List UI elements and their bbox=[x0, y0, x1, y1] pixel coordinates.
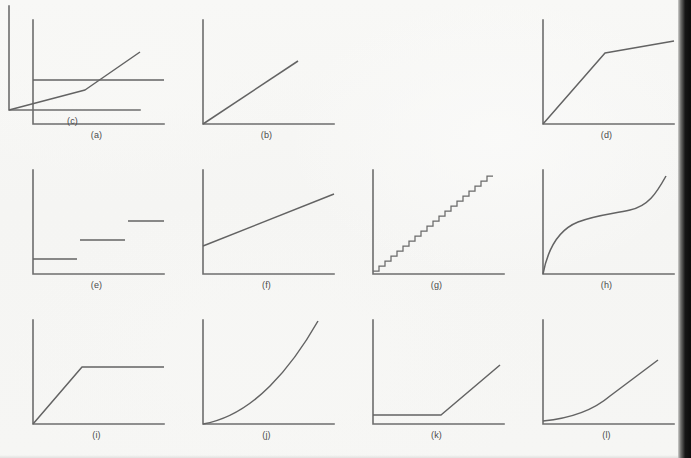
curve-h-sigmoid bbox=[543, 176, 666, 274]
plot-b bbox=[194, 14, 339, 130]
panel-h: (h) bbox=[534, 164, 679, 292]
panel-k: (k) bbox=[364, 314, 509, 442]
curve-l-slow-steep bbox=[543, 360, 658, 421]
panel-j: (j) bbox=[194, 314, 339, 442]
panel-label-a: (a) bbox=[24, 130, 169, 140]
plot-d bbox=[534, 14, 679, 130]
axes-i bbox=[33, 320, 164, 424]
panel-label-d: (d) bbox=[534, 130, 679, 140]
panel-c: (c) bbox=[0, 0, 145, 116]
curve-f-linear-offset bbox=[203, 194, 334, 246]
panel-e: (e) bbox=[24, 164, 169, 292]
panel-label-j: (j) bbox=[194, 430, 339, 440]
figure-page: (a) (b) (c) (d) (e) bbox=[0, 0, 691, 458]
scan-edge-right bbox=[678, 0, 691, 458]
plot-g bbox=[364, 164, 509, 280]
panel-b: (b) bbox=[194, 14, 339, 142]
axes-b bbox=[203, 20, 334, 124]
axes-j bbox=[203, 320, 334, 424]
axes-l bbox=[543, 320, 674, 424]
curve-g-staircase bbox=[373, 176, 493, 271]
plot-j bbox=[194, 314, 339, 430]
curve-k-flat-linear bbox=[373, 365, 500, 415]
panel-f: (f) bbox=[194, 164, 339, 292]
panel-label-e: (e) bbox=[24, 280, 169, 290]
panel-g: (g) bbox=[364, 164, 509, 292]
axes-d bbox=[543, 20, 674, 124]
curve-d-piecewise bbox=[543, 41, 674, 124]
panel-label-h: (h) bbox=[534, 280, 679, 290]
panel-label-f: (f) bbox=[194, 280, 339, 290]
plot-i bbox=[24, 314, 169, 430]
panel-label-c: (c) bbox=[0, 116, 145, 126]
curve-i-ramp-plateau bbox=[33, 367, 164, 424]
panel-l: (l) bbox=[534, 314, 679, 442]
panel-d: (d) bbox=[534, 14, 679, 142]
curve-c-piecewise bbox=[9, 52, 140, 110]
plot-h bbox=[534, 164, 679, 280]
plot-c bbox=[0, 0, 145, 116]
axes-g bbox=[373, 170, 504, 274]
panel-label-l: (l) bbox=[534, 430, 679, 440]
axes-h bbox=[543, 170, 674, 274]
plot-f bbox=[194, 164, 339, 280]
plot-l bbox=[534, 314, 679, 430]
panel-label-b: (b) bbox=[194, 130, 339, 140]
panel-label-i: (i) bbox=[24, 430, 169, 440]
panel-i: (i) bbox=[24, 314, 169, 442]
axes-c bbox=[9, 6, 140, 110]
panel-label-k: (k) bbox=[364, 430, 509, 440]
plot-e bbox=[24, 164, 169, 280]
plot-k bbox=[364, 314, 509, 430]
curve-j-exponential bbox=[203, 321, 318, 424]
panel-label-g: (g) bbox=[364, 280, 509, 290]
curve-b-linear bbox=[203, 61, 298, 124]
axes-k bbox=[373, 320, 504, 424]
axes-f bbox=[203, 170, 334, 274]
